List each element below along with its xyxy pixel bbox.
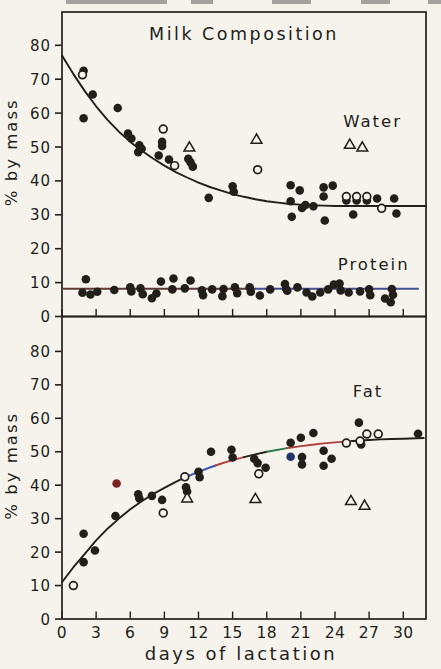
y-tick-label: 70 [30,71,51,89]
data-point-filled [319,446,328,455]
series-label-protein: Protein [338,255,410,274]
y-tick-label: 20 [30,240,51,258]
data-point-filled [127,134,136,143]
data-point-filled [298,453,307,462]
data-point-filled [137,144,146,153]
data-point-open [342,439,350,447]
data-point-filled [79,529,88,538]
data-point-filled [93,287,102,296]
y-tick-label: 10 [30,577,51,595]
data-point-triangle [250,493,261,502]
trend-curve-water [62,56,426,207]
y-tick-label: 40 [30,172,51,190]
data-point-open [255,470,263,478]
y-tick-label: 0 [40,611,51,629]
data-point-filled [308,292,317,301]
data-point-filled [88,90,97,99]
data-point-filled [158,496,167,505]
x-axis-label: days of lactation [145,643,337,664]
data-point-filled [157,277,166,286]
data-point-filled [228,453,237,462]
data-point-open [69,582,77,590]
data-point-filled [256,291,265,300]
data-point-filled [366,291,375,300]
composition-panel: 01020304050607080Milk Composition% by ma… [2,12,426,326]
x-tick-label: 30 [393,624,414,642]
data-point-open [356,437,364,445]
data-point-filled [138,290,147,299]
data-point-filled [293,283,302,292]
scan-artifact-strip [66,0,441,4]
data-point-filled [309,202,318,211]
data-point-filled [82,275,91,284]
x-tick-label: 3 [91,624,101,642]
data-point-filled [286,181,295,190]
data-point-filled [297,433,306,442]
x-tick-label: 6 [125,624,135,642]
data-point-filled [78,288,87,297]
data-point-filled [295,186,304,195]
data-point-filled [181,284,190,293]
data-point-triangle [184,142,195,151]
y-tick-label: 50 [30,139,51,157]
x-tick-label: 24 [325,624,346,642]
y-axis-label: % by mass [2,98,21,206]
data-point-open [254,166,262,174]
series-label-water: Water [343,112,402,131]
data-point-triangle [359,500,370,509]
data-point-filled [349,210,358,219]
data-point-filled [309,429,318,438]
data-point-open [159,125,167,133]
data-point-filled [219,285,228,294]
data-point-filled [135,494,144,503]
y-tick-label: 80 [30,37,51,55]
data-point-filled [127,287,136,296]
data-point-filled [169,274,178,283]
data-point-filled [261,464,270,473]
y-axis-label: % by mass [2,412,21,520]
data-point-open [353,193,361,201]
data-point-filled [247,287,256,296]
data-point-filled [319,192,328,201]
data-point-filled [344,288,353,297]
y-tick-label: 60 [30,105,51,123]
y-tick-label: 60 [30,410,51,428]
data-point-open [79,71,87,79]
data-point-filled-blue [286,452,295,461]
data-point-filled-red [112,479,121,488]
data-point-filled [233,289,242,298]
data-point-filled [392,209,401,218]
data-point-filled [227,445,236,454]
data-point-filled [207,447,216,456]
y-tick-label: 10 [30,274,51,292]
data-point-triangle [346,495,357,504]
data-point-filled [389,291,398,300]
chart-canvas: 01020304050607080Milk Composition% by ma… [0,0,441,669]
series-label-fat: Fat [353,382,384,401]
data-point-filled [79,558,88,567]
data-point-filled [186,276,195,285]
data-point-filled [356,287,365,296]
data-point-filled [152,289,161,298]
data-point-open [181,473,189,481]
data-point-filled [113,104,122,113]
data-point-filled [287,213,296,222]
data-point-filled [386,298,395,307]
data-point-filled [154,151,163,160]
data-point-filled [320,216,329,225]
data-point-triangle [357,142,368,151]
x-tick-label: 21 [291,624,312,642]
data-point-filled [355,418,364,427]
data-point-filled [79,114,88,123]
data-point-open [363,193,371,201]
data-point-filled [298,460,307,469]
data-point-filled [148,492,157,501]
data-point-filled [319,183,328,192]
y-tick-label: 30 [30,510,51,528]
y-tick-label: 0 [40,308,51,326]
data-point-open [171,162,179,170]
trend-curve-fat [62,479,181,582]
data-point-filled [158,142,167,151]
series-fat [62,418,424,589]
x-tick-label: 12 [188,624,209,642]
